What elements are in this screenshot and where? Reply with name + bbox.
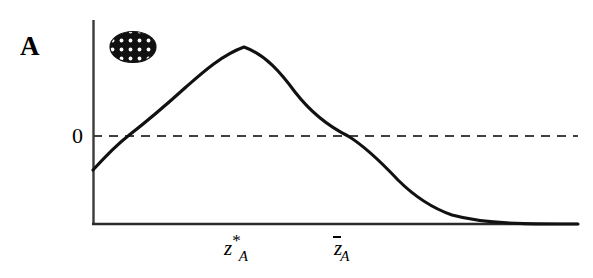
y-axis-zero-label: 0 [72, 125, 83, 147]
figure-panel-a: A 0 z*A zA [0, 0, 593, 278]
tick-subscript-a: A [239, 248, 248, 264]
x-tick-label-z-star-a: z*A [224, 238, 250, 259]
overbar-glyph [333, 236, 341, 238]
figure-canvas [0, 0, 593, 278]
tick-subscript-a: A [340, 248, 349, 264]
x-tick-label-z-bar-a: zA [334, 238, 351, 259]
tick-base-z: z [224, 238, 232, 259]
panel-label: A [20, 33, 40, 60]
stippled-ellipse [110, 32, 156, 63]
